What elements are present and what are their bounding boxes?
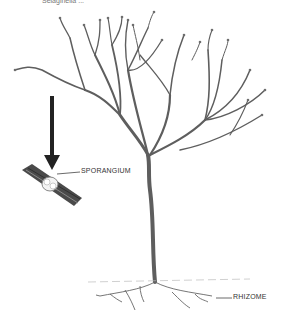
plant-illustration <box>0 0 285 328</box>
magnified-stem-segment <box>22 164 82 206</box>
ground-line <box>88 279 250 282</box>
down-arrow-icon <box>44 96 60 170</box>
rhizome-roots <box>96 282 212 310</box>
sporangium-label: SPORANGIUM <box>81 167 131 174</box>
rhizome-label: RHIZOME <box>233 293 267 300</box>
sporangium-leader-line <box>57 172 80 174</box>
